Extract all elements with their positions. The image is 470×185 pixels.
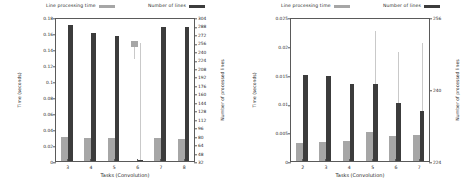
bar-number-of-lines bbox=[326, 76, 331, 161]
y-tick-mark bbox=[53, 83, 56, 84]
legend-label: Line processing time bbox=[281, 3, 331, 9]
legend-swatch-light-icon bbox=[334, 5, 350, 8]
y-tick-label: 0.18 bbox=[43, 17, 53, 21]
y2-tick-label: 112 bbox=[198, 118, 206, 122]
y2-tick-mark bbox=[194, 27, 197, 28]
y-tick-label: 0.16 bbox=[43, 33, 53, 37]
y2-tick-mark bbox=[194, 146, 197, 147]
plot-frame: 00.0050.010.0150.020.025 224240256 23456… bbox=[290, 18, 430, 162]
y2-axis-title: Number of processed lines bbox=[455, 59, 460, 120]
y2-tick-mark bbox=[194, 95, 197, 96]
y2-tick-mark bbox=[194, 52, 197, 53]
y2-tick-label: 304 bbox=[198, 17, 206, 21]
y2-tick-mark bbox=[194, 35, 197, 36]
legend-label: Line processing time bbox=[46, 3, 96, 9]
error-bar bbox=[140, 43, 141, 161]
x-tick-label: 2 bbox=[301, 165, 304, 170]
legend-label: Number of lines bbox=[383, 3, 421, 9]
bar-number-of-lines bbox=[420, 111, 425, 161]
bar-number-of-lines bbox=[91, 33, 96, 161]
y2-tick-mark bbox=[194, 112, 197, 113]
y2-tick-mark bbox=[194, 19, 197, 20]
y-tick-label: 0.015 bbox=[275, 74, 288, 78]
bar-line-processing-time bbox=[61, 137, 68, 161]
y2-tick-mark bbox=[194, 78, 197, 79]
x-tick-label: 6 bbox=[136, 165, 139, 170]
x-tick-mark bbox=[372, 159, 373, 162]
y2-tick-label: 256 bbox=[198, 42, 206, 46]
bar-group bbox=[173, 19, 194, 161]
bar-number-of-lines bbox=[138, 160, 143, 161]
x-axis-title: Tasks (Convolution) bbox=[55, 172, 195, 178]
bar-group bbox=[384, 19, 407, 161]
bar-group bbox=[408, 19, 429, 161]
y2-tick-label: 32 bbox=[198, 161, 204, 165]
y2-tick-mark bbox=[194, 154, 197, 155]
y-tick-mark bbox=[288, 105, 291, 106]
x-tick-label: 4 bbox=[90, 165, 93, 170]
y2-tick-label: 192 bbox=[198, 76, 206, 80]
bar-number-of-lines bbox=[303, 75, 308, 161]
bar-number-of-lines bbox=[68, 25, 73, 161]
y2-tick-label: 256 bbox=[433, 17, 441, 21]
y2-tick-label: 208 bbox=[198, 68, 206, 72]
y2-tick-label: 160 bbox=[198, 93, 206, 97]
y2-tick-label: 224 bbox=[198, 59, 206, 63]
y-tick-label: 0 bbox=[50, 161, 53, 165]
bar-group bbox=[314, 19, 337, 161]
y2-tick-label: 240 bbox=[198, 51, 206, 55]
bar-line-processing-time bbox=[366, 132, 373, 161]
y-tick-label: 0.12 bbox=[43, 65, 53, 69]
x-tick-label: 5 bbox=[371, 165, 374, 170]
plot-frame: 00.020.040.060.080.10.120.140.160.18 324… bbox=[55, 18, 195, 162]
bar-group bbox=[126, 19, 149, 161]
bar-group bbox=[361, 19, 384, 161]
y2-tick-label: 48 bbox=[198, 152, 204, 156]
bar-number-of-lines bbox=[396, 103, 401, 161]
x-tick-mark bbox=[184, 159, 185, 162]
legend-item-line-processing-time: Line processing time bbox=[281, 3, 350, 9]
chart-panel-right: Line processing time Number of lines Tim… bbox=[235, 0, 470, 185]
x-tick-label: 7 bbox=[418, 165, 421, 170]
y2-tick-mark bbox=[194, 129, 197, 130]
bar-line-processing-time bbox=[131, 41, 138, 47]
legend-left: Line processing time Number of lines bbox=[0, 3, 235, 15]
y-tick-label: 0.06 bbox=[43, 113, 53, 117]
x-tick-mark bbox=[114, 159, 115, 162]
y-tick-label: 0.04 bbox=[43, 129, 53, 133]
y2-tick-label: 224 bbox=[433, 161, 441, 165]
y2-tick-label: 176 bbox=[198, 85, 206, 89]
figure-root: Line processing time Number of lines Tim… bbox=[0, 0, 470, 185]
y2-tick-mark bbox=[194, 86, 197, 87]
y2-tick-mark bbox=[194, 61, 197, 62]
x-tick-mark bbox=[326, 159, 327, 162]
bar-line-processing-time bbox=[108, 138, 115, 161]
bar-group bbox=[291, 19, 314, 161]
legend-right: Line processing time Number of lines bbox=[235, 3, 470, 15]
legend-swatch-dark-icon bbox=[189, 5, 205, 8]
y-tick-mark bbox=[53, 131, 56, 132]
x-tick-label: 7 bbox=[160, 165, 163, 170]
y-tick-mark bbox=[288, 76, 291, 77]
bar-group bbox=[56, 19, 79, 161]
x-tick-label: 3 bbox=[325, 165, 328, 170]
bar-line-processing-time bbox=[178, 139, 185, 161]
y2-tick-mark bbox=[429, 163, 432, 164]
y-tick-label: 0.14 bbox=[43, 49, 53, 53]
y-tick-label: 0 bbox=[285, 161, 288, 165]
bar-group bbox=[79, 19, 102, 161]
y2-tick-label: 80 bbox=[198, 135, 204, 139]
legend-item-line-processing-time: Line processing time bbox=[46, 3, 115, 9]
y2-tick-label: 64 bbox=[198, 144, 204, 148]
x-tick-mark bbox=[419, 159, 420, 162]
bar-number-of-lines bbox=[115, 36, 120, 161]
x-tick-mark bbox=[302, 159, 303, 162]
y-axis-title: Time (seconds) bbox=[17, 72, 22, 107]
y2-tick-mark bbox=[194, 163, 197, 164]
y2-tick-label: 272 bbox=[198, 34, 206, 38]
y-tick-mark bbox=[53, 51, 56, 52]
x-tick-label: 3 bbox=[66, 165, 69, 170]
y-tick-label: 0.02 bbox=[43, 145, 53, 149]
y-tick-label: 0.02 bbox=[278, 46, 288, 50]
x-tick-label: 5 bbox=[113, 165, 116, 170]
